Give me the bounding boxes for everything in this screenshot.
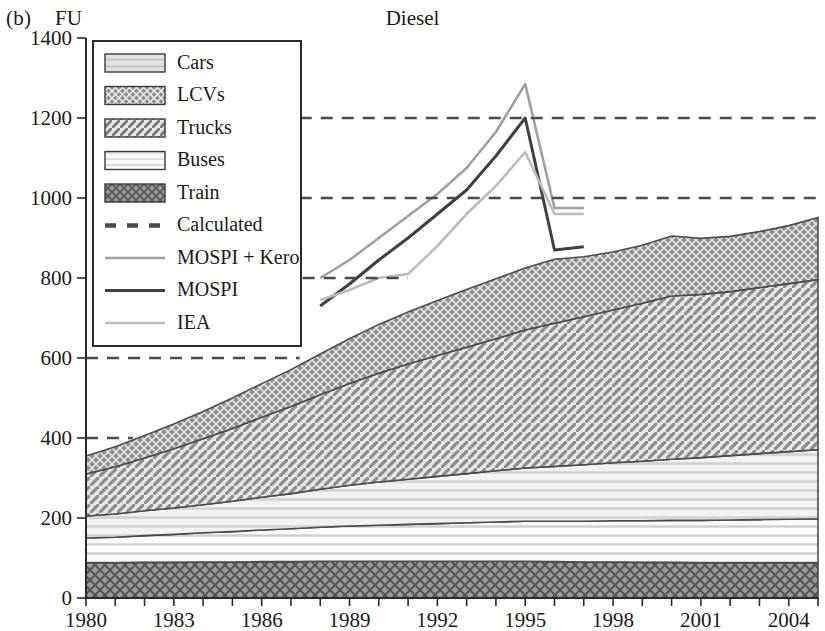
- x-tick-label: 1995: [504, 608, 546, 631]
- legend-item-label: Cars: [177, 51, 214, 73]
- legend-item-label: Buses: [177, 148, 225, 170]
- y-tick-label: 600: [41, 346, 73, 370]
- legend-item-label: Trucks: [177, 116, 232, 138]
- x-tick-label: 1998: [592, 608, 634, 631]
- y-tick-label: 1200: [30, 106, 72, 130]
- legend-swatch-icon: [105, 54, 165, 72]
- y-tick-label: 1400: [30, 26, 72, 50]
- legend-item-label: Train: [177, 181, 220, 203]
- line-series-mospi-kero: [320, 84, 584, 278]
- legend-item-label: LCVs: [177, 83, 225, 105]
- y-tick-label: 0: [62, 586, 73, 610]
- chart-page: (b) FU Diesel: [0, 0, 825, 631]
- x-tick-label: 2004: [768, 608, 811, 631]
- legend-item-buses[interactable]: Buses: [105, 148, 225, 170]
- x-tick-label: 1980: [65, 608, 107, 631]
- legend-item-label: MOSPI: [177, 278, 238, 300]
- x-tick-label: 1986: [241, 608, 283, 631]
- y-tick-label: 400: [41, 426, 73, 450]
- x-tick-label: 2001: [680, 608, 722, 631]
- x-tick-label: 1992: [416, 608, 458, 631]
- legend-item-label: MOSPI + Kero: [177, 246, 299, 268]
- legend-swatch-icon: [105, 184, 165, 202]
- legend-item-label: IEA: [177, 311, 211, 333]
- y-tick-label: 800: [41, 266, 73, 290]
- y-tick-label: 200: [41, 506, 73, 530]
- legend-item-lcvs[interactable]: LCVs: [105, 83, 225, 105]
- legend-item-train[interactable]: Train: [105, 181, 220, 203]
- legend-swatch-icon: [105, 119, 165, 137]
- diesel-stacked-area-chart: 0200400600800100012001400198019831986198…: [0, 0, 825, 631]
- legend-item-cars[interactable]: Cars: [105, 51, 214, 73]
- x-tick-label: 1983: [153, 608, 195, 631]
- chart-legend: CarsLCVsTrucksBusesTrainCalculatedMOSPI …: [93, 41, 301, 346]
- legend-swatch-icon: [105, 152, 165, 170]
- legend-item-label: Calculated: [177, 213, 263, 235]
- legend-swatch-icon: [105, 87, 165, 105]
- x-tick-label: 1989: [329, 608, 371, 631]
- area-band-train: [86, 561, 818, 598]
- y-tick-label: 1000: [30, 186, 72, 210]
